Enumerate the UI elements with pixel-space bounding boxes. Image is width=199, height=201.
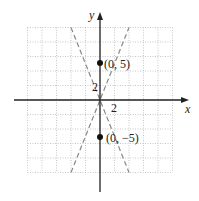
coordinate-plane: x y 2 2 (0, 5) (0, −5) [0,0,199,201]
y-tick-label: 2 [92,80,98,94]
point-bottom [97,134,103,140]
point-bottom-label: (0, −5) [106,131,139,145]
x-axis-label: x [184,102,191,116]
y-axis-label: y [88,8,95,22]
x-tick-label: 2 [111,101,117,115]
point-top-label: (0, 5) [104,57,130,71]
point-top [97,60,103,66]
y-axis-arrow-icon [97,12,103,20]
